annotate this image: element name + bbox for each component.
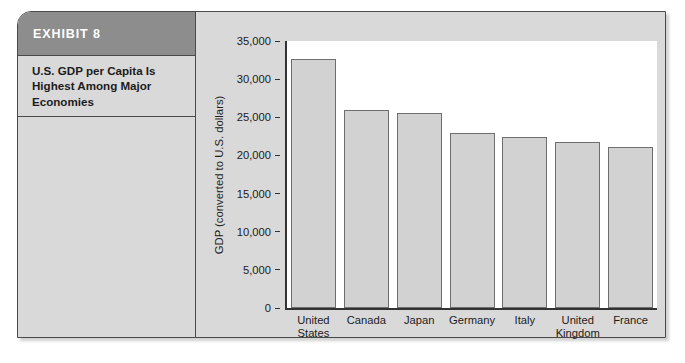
bar-slot <box>604 41 657 308</box>
x-label-line: France <box>604 314 657 327</box>
exhibit-container: EXHIBIT 8 U.S. GDP per Capita Is Highest… <box>17 11 666 338</box>
plot-area <box>285 41 657 310</box>
y-tick-mark <box>275 79 280 80</box>
y-tick-mark <box>275 41 280 42</box>
bar-slot <box>393 41 446 308</box>
bar-italy <box>502 137 547 308</box>
y-tick-20000: 20,000 <box>228 149 280 161</box>
x-label-united-states: UnitedStates <box>287 314 340 340</box>
y-axis-label-text: GDP (converted to U.S. dollars) <box>213 96 225 255</box>
x-label-line: Italy <box>498 314 551 327</box>
bar-slot <box>287 41 340 308</box>
y-tick-mark <box>275 117 280 118</box>
y-tick-10000: 10,000 <box>228 226 280 238</box>
exhibit-header: EXHIBIT 8 <box>18 12 195 56</box>
bar-united-states <box>291 59 336 308</box>
bar-japan <box>397 113 442 308</box>
y-tick-mark <box>275 308 280 309</box>
x-label-germany: Germany <box>446 314 499 340</box>
bar-slot <box>498 41 551 308</box>
y-tick-25000: 25,000 <box>228 111 280 123</box>
y-tick-mark <box>275 155 280 156</box>
y-tick-15000: 15,000 <box>228 188 280 200</box>
y-axis-line <box>285 41 287 310</box>
y-tick-label: 10,000 <box>237 226 271 238</box>
exhibit-caption-text: U.S. GDP per Capita Is Highest Among Maj… <box>18 63 195 109</box>
y-tick-35000: 35,000 <box>228 35 280 47</box>
x-label-line: Canada <box>340 314 393 327</box>
y-axis-tick-labels: 05,00010,00015,00020,00025,00030,00035,0… <box>228 12 280 337</box>
bar-series <box>287 41 657 308</box>
x-label-line: Japan <box>393 314 446 327</box>
y-tick-mark <box>275 269 280 270</box>
x-label-line: States <box>287 327 340 340</box>
exhibit-number-label: EXHIBIT 8 <box>18 27 101 41</box>
y-tick-label: 15,000 <box>237 188 271 200</box>
chart-panel: GDP (converted to U.S. dollars) 05,00010… <box>196 12 665 337</box>
bar-united-kingdom <box>555 142 600 308</box>
x-label-japan: Japan <box>393 314 446 340</box>
y-tick-30000: 30,000 <box>228 73 280 85</box>
bar-france <box>608 147 653 308</box>
x-axis-tick-labels: UnitedStatesCanadaJapanGermanyItalyUnite… <box>287 314 657 340</box>
y-tick-label: 20,000 <box>237 149 271 161</box>
y-tick-label: 25,000 <box>237 111 271 123</box>
exhibit-caption-filler <box>18 117 195 337</box>
x-label-line: United <box>287 314 340 327</box>
x-label-canada: Canada <box>340 314 393 340</box>
y-tick-label: 0 <box>265 302 271 314</box>
bar-germany <box>450 133 495 308</box>
bar-canada <box>344 110 389 308</box>
y-tick-label: 30,000 <box>237 73 271 85</box>
x-label-france: France <box>604 314 657 340</box>
y-tick-mark <box>275 193 280 194</box>
y-axis-label: GDP (converted to U.S. dollars) <box>210 50 228 300</box>
bar-slot <box>446 41 499 308</box>
y-tick-label: 35,000 <box>237 35 271 47</box>
y-tick-0: 0 <box>228 302 280 314</box>
exhibit-caption-panel: EXHIBIT 8 U.S. GDP per Capita Is Highest… <box>18 12 196 337</box>
x-label-united-kingdom: UnitedKingdom <box>551 314 604 340</box>
x-axis-line <box>285 308 657 310</box>
y-tick-label: 5,000 <box>243 264 271 276</box>
y-tick-mark <box>275 231 280 232</box>
bar-slot <box>551 41 604 308</box>
x-label-line: United <box>551 314 604 327</box>
exhibit-caption-box: U.S. GDP per Capita Is Highest Among Maj… <box>18 56 195 117</box>
bar-slot <box>340 41 393 308</box>
x-label-italy: Italy <box>498 314 551 340</box>
y-tick-5000: 5,000 <box>228 264 280 276</box>
x-label-line: Germany <box>446 314 499 327</box>
x-label-line: Kingdom <box>551 327 604 340</box>
